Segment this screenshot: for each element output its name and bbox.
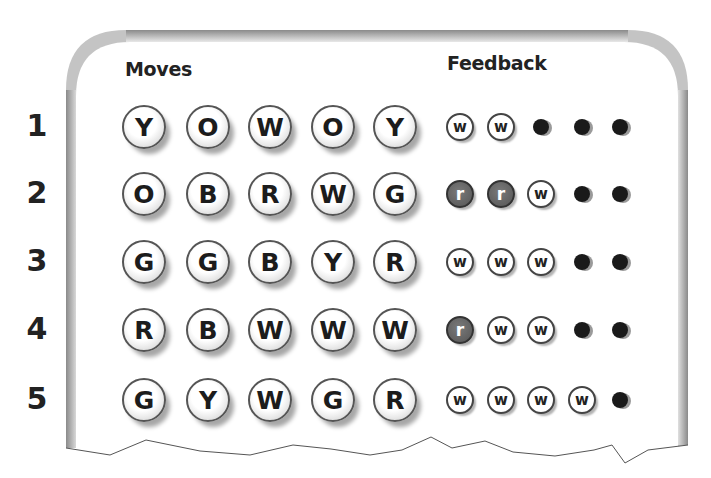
- feedback-header: Feedback: [447, 52, 547, 74]
- card-frame: [0, 0, 711, 478]
- move-peg: B: [186, 172, 230, 216]
- white-feedback-peg: w: [487, 113, 515, 141]
- moves-header: Moves: [125, 58, 192, 80]
- white-feedback-peg: w: [527, 180, 555, 208]
- move-peg: O: [311, 105, 355, 149]
- move-peg: Y: [311, 240, 355, 284]
- white-feedback-peg: w: [487, 248, 515, 276]
- row-number: 1: [22, 111, 52, 141]
- move-peg: W: [248, 308, 292, 352]
- empty-feedback-peg: [574, 254, 590, 270]
- move-peg: W: [311, 172, 355, 216]
- red-feedback-peg: r: [446, 316, 474, 344]
- red-feedback-peg: r: [487, 180, 515, 208]
- move-peg: Y: [373, 105, 417, 149]
- red-feedback-peg: r: [446, 180, 474, 208]
- empty-feedback-peg: [612, 186, 628, 202]
- move-peg: R: [373, 240, 417, 284]
- move-peg: W: [248, 378, 292, 422]
- empty-feedback-peg: [612, 119, 628, 135]
- white-feedback-peg: w: [568, 386, 596, 414]
- empty-feedback-peg: [574, 186, 590, 202]
- white-feedback-peg: w: [446, 113, 474, 141]
- move-peg: W: [248, 105, 292, 149]
- row-number: 4: [22, 314, 52, 344]
- white-feedback-peg: w: [446, 248, 474, 276]
- move-peg: R: [373, 378, 417, 422]
- move-peg: G: [311, 378, 355, 422]
- empty-feedback-peg: [574, 119, 590, 135]
- white-feedback-peg: w: [446, 386, 474, 414]
- move-peg: B: [186, 308, 230, 352]
- empty-feedback-peg: [612, 254, 628, 270]
- row-number: 5: [22, 384, 52, 414]
- white-feedback-peg: w: [487, 386, 515, 414]
- white-feedback-peg: w: [527, 248, 555, 276]
- empty-feedback-peg: [612, 392, 628, 408]
- move-peg: W: [373, 308, 417, 352]
- move-peg: B: [248, 240, 292, 284]
- move-peg: Y: [122, 105, 166, 149]
- empty-feedback-peg: [533, 119, 549, 135]
- white-feedback-peg: w: [527, 386, 555, 414]
- white-feedback-peg: w: [487, 316, 515, 344]
- move-peg: G: [122, 240, 166, 284]
- move-peg: G: [373, 172, 417, 216]
- move-peg: O: [122, 172, 166, 216]
- row-number: 2: [22, 178, 52, 208]
- move-peg: Y: [186, 378, 230, 422]
- mastermind-board: Moves Feedback 1YOWOYww2OBRWGrrw3GGBYRww…: [0, 0, 711, 478]
- move-peg: R: [122, 308, 166, 352]
- white-feedback-peg: w: [527, 316, 555, 344]
- move-peg: W: [311, 308, 355, 352]
- empty-feedback-peg: [612, 322, 628, 338]
- move-peg: G: [186, 240, 230, 284]
- empty-feedback-peg: [574, 322, 590, 338]
- row-number: 3: [22, 246, 52, 276]
- move-peg: O: [186, 105, 230, 149]
- move-peg: R: [248, 172, 292, 216]
- move-peg: G: [122, 378, 166, 422]
